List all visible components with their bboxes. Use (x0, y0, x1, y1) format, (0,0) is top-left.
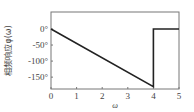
x-tick-label: 4 (151, 91, 156, 101)
phase-line (51, 29, 179, 87)
x-tick-label: 0 (49, 91, 54, 101)
phase-response-chart: 012345 0°-50°-100°-150° ω 相频响应φ(ω) (0, 0, 194, 112)
y-tick-label: -50° (32, 40, 48, 50)
x-tick-label: 3 (126, 91, 131, 101)
plot-frame (51, 12, 179, 89)
y-tick-label: 0° (40, 24, 49, 34)
x-axis-label: ω (112, 101, 118, 110)
x-tick-label: 5 (177, 91, 182, 101)
y-tick-label: -150° (28, 72, 48, 82)
y-axis-ticks: 0°-50°-100°-150° (28, 24, 53, 82)
x-tick-label: 2 (100, 91, 105, 101)
y-tick-label: -100° (28, 56, 48, 66)
x-tick-label: 1 (74, 91, 79, 101)
y-axis-label: 相频响应φ(ω) (3, 25, 13, 75)
